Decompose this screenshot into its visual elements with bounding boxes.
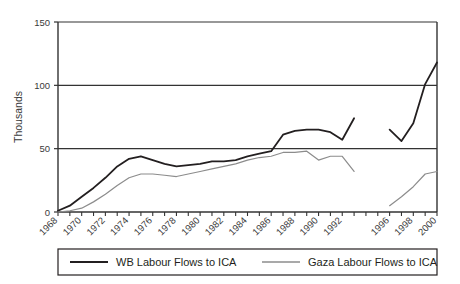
line-chart-svg: Thousands 050100150 19681970197219741976… (0, 0, 460, 284)
y-axis-title-text: Thousands (12, 91, 24, 143)
y-tick-label-100: 100 (34, 80, 50, 91)
y-axis-title: Thousands (12, 91, 24, 143)
y-tick-label-50: 50 (39, 143, 50, 154)
legend-label-wb: WB Labour Flows to ICA (116, 256, 237, 268)
y-tick-label-150: 150 (34, 17, 50, 28)
chart-background (0, 0, 460, 284)
legend-label-gaza: Gaza Labour Flows to ICA (308, 256, 438, 268)
legend: WB Labour Flows to ICA Gaza Labour Flows… (58, 249, 438, 275)
chart-figure: Thousands 050100150 19681970197219741976… (0, 0, 460, 284)
